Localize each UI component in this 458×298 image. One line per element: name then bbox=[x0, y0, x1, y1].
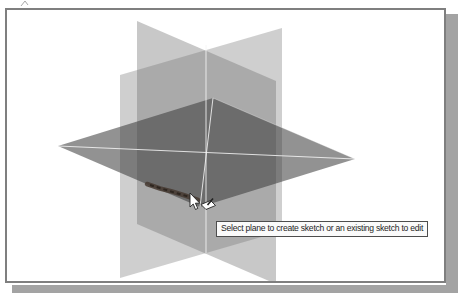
stray-mark bbox=[18, 0, 32, 8]
tooltip: Select plane to create sketch or an exis… bbox=[216, 221, 428, 237]
window-shadow-bottom bbox=[12, 285, 458, 293]
viewport-frame bbox=[5, 8, 446, 283]
window-shadow-right bbox=[446, 14, 458, 293]
tooltip-text: Select plane to create sketch or an exis… bbox=[221, 223, 423, 233]
model-viewport[interactable] bbox=[7, 10, 444, 281]
screenshot-root: { "window": { "tooltip_text": "Select pl… bbox=[0, 0, 458, 298]
stray-mark-path bbox=[21, 1, 28, 6]
